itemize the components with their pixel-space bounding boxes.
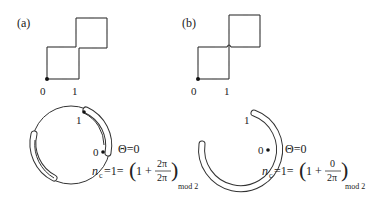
origin-dot-b: [196, 77, 200, 81]
lattice-label-1-b: 1: [224, 85, 230, 97]
theta-b: Θ=0: [285, 142, 306, 156]
svg-text:mod 2: mod 2: [345, 182, 365, 191]
svg-text:1 +: 1 +: [306, 164, 322, 178]
theta-a: Θ=0: [118, 142, 139, 156]
svg-text:1 +: 1 +: [136, 164, 152, 178]
circle-label-1-a: 1: [76, 114, 82, 126]
lattice-label-0-a: 0: [40, 85, 46, 97]
lattice-path-a: [47, 18, 107, 79]
formula-a: n c =1= ( 1 + 2π 2π ) mod 2: [92, 157, 198, 191]
svg-text:0: 0: [330, 158, 335, 169]
svg-text:=1=: =1=: [104, 164, 124, 178]
svg-text:c: c: [99, 171, 103, 180]
panel-b: (b) 0 1 1: [182, 15, 365, 191]
circle-label-1-b: 1: [244, 114, 250, 126]
svg-text:n: n: [262, 164, 268, 178]
diagram-canvas: (a) 0 1: [0, 0, 377, 199]
svg-text:2π: 2π: [327, 172, 337, 183]
panel-a: (a) 0 1: [17, 16, 198, 191]
svg-text:2π: 2π: [157, 172, 167, 183]
svg-text:c: c: [269, 171, 273, 180]
panel-a-label: (a): [17, 16, 30, 30]
origin-dot-a: [45, 77, 49, 81]
panel-b-label: (b): [182, 16, 196, 30]
lattice-label-1-a: 1: [72, 85, 78, 97]
circle-label-0-a: 0: [93, 146, 99, 158]
svg-text:n: n: [92, 164, 98, 178]
svg-text:): ): [171, 157, 178, 182]
svg-text:mod 2: mod 2: [178, 182, 198, 191]
svg-text:2π: 2π: [157, 158, 167, 169]
svg-text:=1=: =1=: [274, 164, 294, 178]
circle-label-0-b: 0: [258, 144, 264, 156]
lattice-label-0-b: 0: [191, 85, 197, 97]
lattice-path-b: [198, 15, 260, 79]
svg-text:): ): [341, 157, 348, 182]
